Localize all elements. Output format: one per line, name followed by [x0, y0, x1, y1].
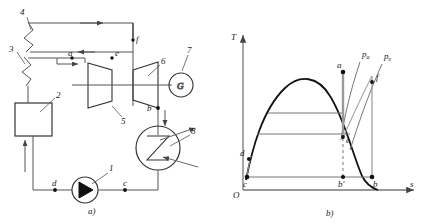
- label-component-5: 5: [121, 116, 126, 126]
- label-point-e-ts: e: [346, 135, 350, 145]
- diagram-canvas: G 4 3 2: [0, 0, 424, 224]
- point-c-dot: [123, 188, 127, 192]
- label-point-d: d: [52, 178, 57, 188]
- generator-symbol-label: G: [177, 81, 184, 91]
- label-point-c-ts: c: [243, 179, 247, 189]
- cooling-water-in: [163, 157, 198, 167]
- label-point-a-ts: a: [337, 60, 342, 70]
- figure-root: G 4 3 2: [0, 0, 424, 224]
- point-f-dot-ts: [370, 80, 374, 84]
- caption-panel-b: b): [326, 208, 334, 218]
- label-point-f-ts: f: [376, 72, 380, 82]
- point-a-dot-ts: [341, 70, 346, 75]
- label-point-c: c: [123, 178, 127, 188]
- point-d-dot: [53, 188, 57, 192]
- point-d-dot-ts: [247, 157, 251, 161]
- leader-1: [92, 173, 108, 184]
- pump-impeller-triangle: [79, 182, 93, 198]
- label-component-1: 1: [109, 163, 114, 173]
- label-point-e: e: [115, 48, 119, 58]
- label-point-a: a: [68, 48, 73, 58]
- condenser-coil: [147, 136, 169, 160]
- point-e-dot-ts: [341, 135, 345, 139]
- label-point-d-ts: d: [240, 148, 245, 158]
- leader-7: [182, 55, 188, 71]
- point-e-dot: [110, 56, 113, 59]
- isobar-pe-label: pe: [383, 51, 392, 62]
- label-component-6: 6: [161, 56, 166, 66]
- label-component-4: 4: [20, 7, 25, 17]
- label-component-7: 7: [187, 45, 192, 55]
- label-point-b: b: [147, 103, 152, 113]
- label-point-b-ts: b: [373, 179, 378, 189]
- caption-panel-a: a): [88, 206, 96, 216]
- label-point-f: f: [136, 34, 140, 44]
- label-component-8: 8: [191, 126, 196, 136]
- s-axis-label: s: [410, 179, 414, 189]
- label-point-bprime-ts: b': [338, 179, 346, 189]
- t-axis-label: T: [231, 32, 237, 42]
- leader-3: [17, 52, 25, 64]
- component-box-2: [15, 103, 52, 136]
- point-f-dot: [131, 38, 134, 41]
- origin-label: O: [233, 190, 240, 200]
- panel-a-labels: 4 3 2 5 6 7 8 1 a e f b c d a): [8, 7, 196, 216]
- leader-2: [40, 98, 55, 112]
- label-component-2: 2: [56, 90, 61, 100]
- point-b-dot: [156, 106, 160, 110]
- isobar-pa-label: pa: [361, 49, 370, 60]
- panel-a-schematic: G: [15, 22, 198, 203]
- panel-b-ts-diagram: T s O pa pe a e: [231, 32, 414, 218]
- label-component-3: 3: [8, 44, 14, 54]
